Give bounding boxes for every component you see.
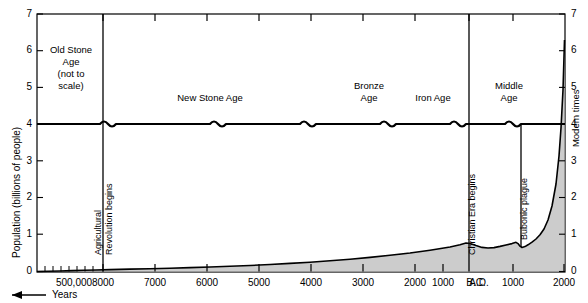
event-agricultural-revolution-line1: Agricultural: [93, 210, 103, 255]
x-tick-2000-ad: 2000: [541, 277, 587, 288]
era-old-stone-age-line4: scale): [40, 81, 102, 92]
x-axis-caption: Years: [52, 289, 77, 300]
era-middle-age-line2: Age: [483, 93, 535, 104]
era-new-stone-age: New Stone Age: [150, 93, 270, 104]
x-tick-3000: 3000: [340, 277, 386, 288]
event-christian-era-begins: Christian Era begins: [467, 174, 477, 255]
era-old-stone-age-line2: Age: [40, 57, 102, 68]
x-tick-6000: 6000: [184, 277, 230, 288]
y-tick-left-6: 6: [14, 44, 32, 55]
x-tick-8000: 8000: [80, 277, 126, 288]
x-tick-4000: 4000: [288, 277, 334, 288]
event-agricultural-revolution-line2: Revolution begins: [104, 183, 114, 255]
y-tick-left-4: 4: [14, 118, 32, 129]
x-tick-7000: 7000: [132, 277, 178, 288]
population-chart: Population (billions of people) 7 6 5 4 …: [0, 0, 588, 303]
x-tick-5000: 5000: [236, 277, 282, 288]
y-tick-left-7: 7: [14, 8, 32, 19]
era-iron-age: Iron Age: [402, 93, 464, 104]
years-arrow-icon: [12, 291, 46, 299]
y-tick-left-0: 0: [14, 265, 32, 276]
era-old-stone-age-line1: Old Stone: [40, 45, 102, 56]
y-tick-left-3: 3: [14, 155, 32, 166]
era-modern-times: Modern times: [571, 90, 582, 148]
y-tick-left-1: 1: [14, 228, 32, 239]
era-middle-age-line1: Middle: [483, 81, 535, 92]
event-bubonic-plague: Bubonic plague: [519, 178, 529, 240]
y-tick-right-7: 7: [571, 8, 587, 19]
era-old-stone-age-line3: (not to: [40, 69, 102, 80]
x-tick-1000-ad: 1000: [490, 277, 536, 288]
y-tick-right-0: 0: [571, 265, 587, 276]
y-tick-left-5: 5: [14, 81, 32, 92]
era-bronze-age-line2: Age: [340, 93, 398, 104]
y-tick-right-1: 1: [571, 228, 587, 239]
y-tick-right-6: 6: [571, 44, 587, 55]
plot-frame: [37, 14, 565, 272]
y-tick-left-2: 2: [14, 191, 32, 202]
era-bronze-age-line1: Bronze: [340, 81, 398, 92]
y-tick-right-3: 3: [571, 155, 587, 166]
y-tick-right-2: 2: [571, 191, 587, 202]
